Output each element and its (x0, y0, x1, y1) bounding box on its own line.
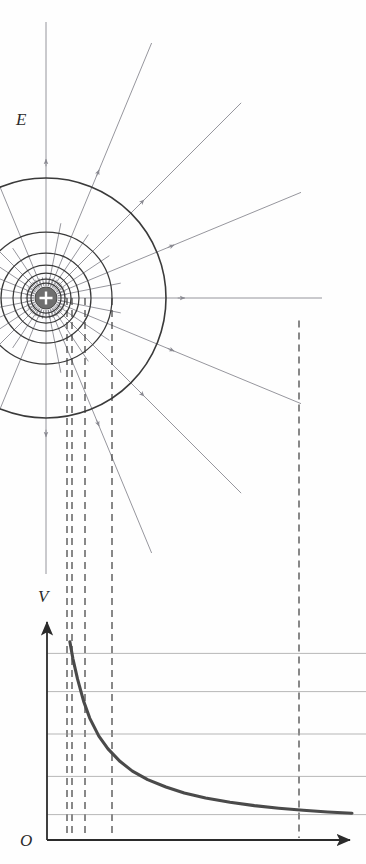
field-line (54, 306, 241, 493)
field-line-arrow-icon (96, 420, 99, 426)
field-diagram-group: E (0, 22, 322, 574)
field-line-arrow-icon (96, 170, 99, 176)
field-line-arrow-icon (139, 391, 144, 396)
projection-dashed-lines (67, 298, 299, 838)
field-label-E: E (15, 110, 27, 129)
field-line (57, 303, 301, 404)
v-axis-label: V (38, 587, 51, 606)
point-charge (35, 287, 57, 309)
potential-curve (70, 642, 352, 814)
graph-gridlines (47, 653, 366, 814)
figure-canvas: E V O (0, 0, 366, 864)
field-line-arrow-icon (168, 348, 174, 351)
field-line (51, 309, 152, 553)
electric-field-and-potential-diagram: E V O (0, 0, 366, 864)
field-line-arrow-icon (168, 245, 174, 248)
field-line (51, 43, 152, 287)
field-line (54, 103, 241, 290)
field-line-arrow-icon (139, 200, 144, 205)
field-line (57, 192, 301, 293)
origin-label: O (20, 831, 32, 850)
